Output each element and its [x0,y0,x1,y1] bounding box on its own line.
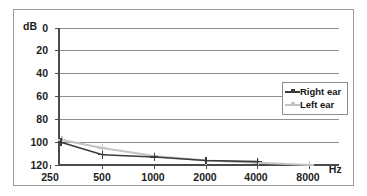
audiogram-chart: dB Hz 0 20 40 60 80 100 120 250 500 1000… [13,9,354,186]
legend-item-right-ear: Right ear [285,85,344,98]
x-axis-ticks [51,165,310,169]
legend-line-left-ear-icon [285,100,300,109]
legend-line-right-ear-icon [285,87,300,96]
y-axis-ticks [55,28,59,165]
chart-legend: Right ear Left ear [282,82,348,115]
legend-label-left-ear: Left ear [300,99,334,110]
legend-item-left-ear: Left ear [285,98,344,111]
legend-label-right-ear: Right ear [300,86,341,97]
series-left-ear [58,136,314,165]
